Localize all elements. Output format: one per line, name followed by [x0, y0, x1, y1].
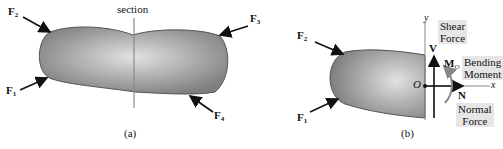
normal-symbol: N: [458, 90, 466, 101]
force-label-f1-b: F1: [297, 112, 307, 125]
force-label-f1-a: F1: [6, 85, 16, 98]
force-label-f3-a: F3: [250, 13, 260, 26]
force-arrow-f2-a: [23, 17, 50, 32]
moment-symbol: MO: [444, 58, 459, 71]
force-arrow-f3-a: [220, 26, 248, 35]
caption-b: (b): [401, 128, 414, 139]
caption-a: (a): [124, 128, 136, 139]
force-arrow-f2-b: [315, 42, 343, 54]
force-label-f4-a: F4: [214, 110, 224, 123]
force-label-f2-b: F2: [297, 30, 307, 43]
normal-label: NormalForce: [456, 103, 494, 127]
shear-label: ShearForce: [438, 20, 467, 44]
shear-symbol: V: [429, 43, 437, 54]
body-b: [330, 50, 425, 118]
force-arrow-f1-b: [310, 99, 338, 112]
x-axis-label: x: [491, 80, 495, 90]
moment-label: BendingMoment: [462, 56, 503, 80]
moment-arc: [444, 66, 452, 103]
section-label: section: [117, 4, 148, 15]
y-axis-label: y: [424, 13, 428, 23]
force-label-f2-a: F2: [8, 6, 18, 19]
force-arrow-f1-a: [20, 78, 47, 90]
origin-label: O: [413, 79, 421, 90]
force-arrow-f4-a: [190, 96, 213, 112]
